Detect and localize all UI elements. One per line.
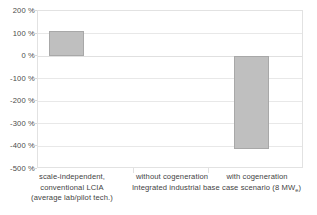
x-axis-group-label: Integrated industrial base case scenario…	[124, 183, 309, 194]
y-tick-label: 200 %	[0, 6, 35, 15]
x-axis-group-label-suffix: )	[298, 183, 301, 192]
x-axis-group-label-subscript: e	[295, 187, 298, 193]
y-tick-label: 0 %	[0, 51, 35, 60]
bar-with-cogeneration	[234, 56, 269, 149]
y-tick-mark	[33, 168, 37, 169]
y-tick-label: -300 %	[0, 119, 35, 128]
bar-scale-independent-conventional-lcia	[49, 31, 84, 56]
x-category-with-cogeneration: with cogeneration	[212, 172, 302, 183]
y-tick-label: 100 %	[0, 29, 35, 38]
x-axis: scale-independent, conventional LCIA (av…	[0, 172, 317, 215]
y-tick-label: -200 %	[0, 96, 35, 105]
x-category-scale-independent: scale-independent, conventional LCIA (av…	[12, 172, 132, 204]
y-tick-label: -400 %	[0, 141, 35, 150]
x-category-line: scale-independent,	[12, 172, 132, 183]
x-category-line: without cogeneration	[136, 172, 208, 183]
plot-area	[37, 10, 303, 168]
y-tick-label: -100 %	[0, 74, 35, 83]
x-category-without-cogeneration: without cogeneration	[136, 172, 208, 183]
x-category-line: with cogeneration	[212, 172, 302, 183]
x-axis-group-label-text: Integrated industrial base case scenario…	[132, 183, 295, 192]
chart-container: 200 % 100 % 0 % -100 % -200 % -300 % -40…	[0, 0, 317, 215]
x-category-line: conventional LCIA	[12, 183, 132, 194]
x-category-line: (average lab/pilot tech.)	[12, 193, 132, 204]
